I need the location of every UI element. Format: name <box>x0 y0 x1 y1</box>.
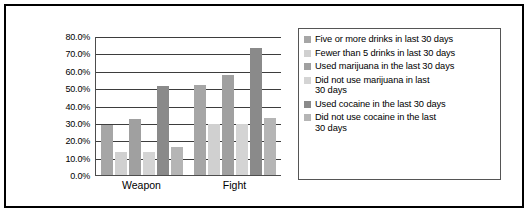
bar-group <box>189 37 282 175</box>
plot-area <box>95 37 281 176</box>
y-axis-labels: 80.0%70.0%60.0%50.0%40.0%30.0%20.0%10.0%… <box>38 6 90 206</box>
legend-label: Five or more drinks in last 30 days <box>315 34 453 45</box>
bar <box>236 124 248 175</box>
legend-swatch-icon <box>304 101 311 108</box>
y-axis-tick: 80.0% <box>38 33 90 42</box>
legend-item: Did not use marijuana in last 30 days <box>304 75 496 96</box>
y-axis-tick: 40.0% <box>38 102 90 111</box>
bar <box>208 124 220 175</box>
legend-swatch-icon <box>304 77 311 84</box>
x-axis-category-label: Weapon <box>95 178 188 194</box>
chart-legend: Five or more drinks in last 30 daysFewer… <box>298 28 501 180</box>
legend-swatch-icon <box>304 114 311 121</box>
legend-label: Fewer than 5 drinks in last 30 days <box>315 48 455 59</box>
x-axis-labels: WeaponFight <box>95 178 281 194</box>
bar <box>171 147 183 175</box>
legend-swatch-icon <box>304 50 311 57</box>
y-axis-tick: 30.0% <box>38 119 90 128</box>
legend-label: Did not use cocaine in the last 30 days <box>315 112 436 133</box>
y-axis-tick: 10.0% <box>38 154 90 163</box>
legend-label: Did not use marijuana in last 30 days <box>315 75 429 96</box>
y-axis-tick: 50.0% <box>38 85 90 94</box>
bar <box>129 119 141 175</box>
legend-item: Used cocaine in the last 30 days <box>304 99 496 110</box>
bar-chart: 80.0%70.0%60.0%50.0%40.0%30.0%20.0%10.0%… <box>6 6 296 206</box>
bar <box>250 48 262 175</box>
bar <box>264 118 276 175</box>
y-axis-tick: 0.0% <box>38 172 90 181</box>
y-axis-tick: 20.0% <box>38 137 90 146</box>
x-axis-category-label: Fight <box>188 178 281 194</box>
legend-item: Used marijuana in the last 30 days <box>304 61 496 72</box>
bar-groups <box>96 37 281 175</box>
bar <box>101 125 113 175</box>
bar <box>222 75 234 175</box>
bar <box>143 152 155 175</box>
bar <box>157 86 169 175</box>
y-axis-tick: 70.0% <box>38 50 90 59</box>
legend-swatch-icon <box>304 36 311 43</box>
legend-item: Did not use cocaine in the last 30 days <box>304 112 496 133</box>
bar-group <box>96 37 189 175</box>
bar <box>194 85 206 175</box>
legend-label: Used marijuana in the last 30 days <box>315 61 454 72</box>
legend-item: Fewer than 5 drinks in last 30 days <box>304 48 496 59</box>
legend-swatch-icon <box>304 63 311 70</box>
legend-item: Five or more drinks in last 30 days <box>304 34 496 45</box>
y-axis-tick: 60.0% <box>38 67 90 76</box>
bar <box>115 152 127 175</box>
chart-frame: 80.0%70.0%60.0%50.0%40.0%30.0%20.0%10.0%… <box>4 4 524 208</box>
legend-label: Used cocaine in the last 30 days <box>315 99 446 110</box>
